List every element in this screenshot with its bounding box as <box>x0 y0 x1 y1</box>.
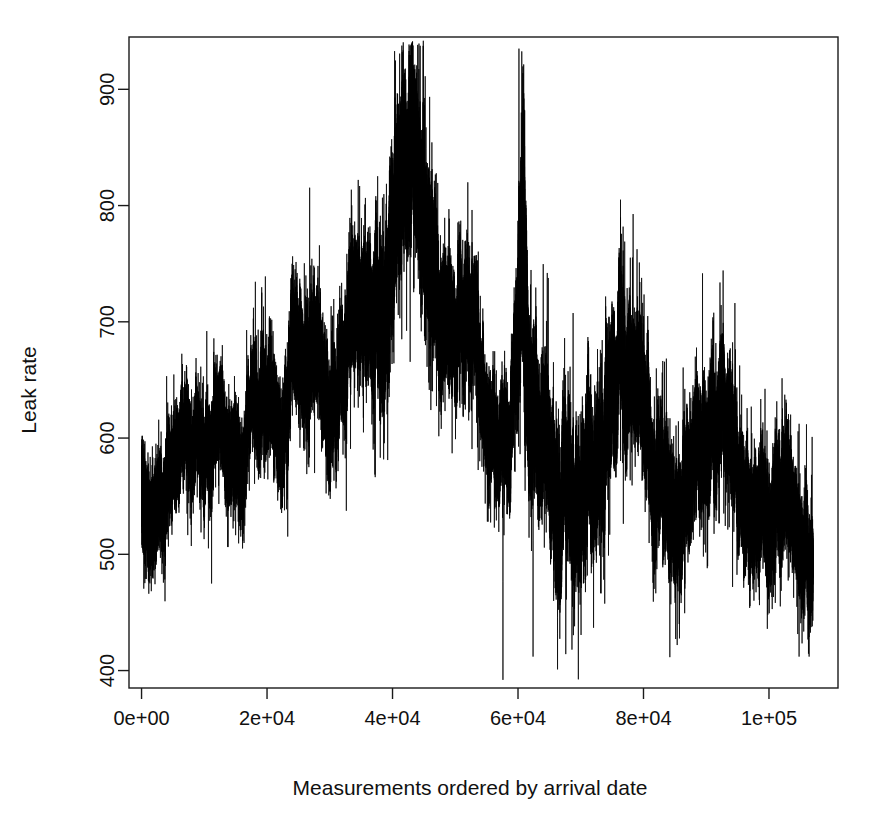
x-tick-label: 6e+04 <box>490 707 546 729</box>
y-tick-label: 900 <box>96 73 118 106</box>
y-tick-label: 800 <box>96 189 118 222</box>
y-tick-label: 400 <box>96 654 118 687</box>
x-tick-label: 4e+04 <box>364 707 420 729</box>
x-tick-label: 2e+04 <box>239 707 295 729</box>
x-tick-label: 8e+04 <box>615 707 671 729</box>
y-axis-title: Leak rate <box>17 346 40 434</box>
x-tick-label: 0e+00 <box>113 707 169 729</box>
y-tick-label: 700 <box>96 305 118 338</box>
x-axis-title: Measurements ordered by arrival date <box>293 776 648 799</box>
x-tick-label: 1e+05 <box>741 707 797 729</box>
chart-figure: 400500600700800900 0e+002e+044e+046e+048… <box>0 0 878 817</box>
y-tick-label: 600 <box>96 421 118 454</box>
y-tick-label: 500 <box>96 538 118 571</box>
leak-rate-line-chart: 400500600700800900 0e+002e+044e+046e+048… <box>0 0 878 817</box>
